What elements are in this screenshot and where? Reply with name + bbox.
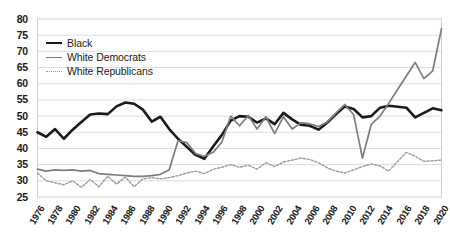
y-axis-tick-label: 40 — [2, 143, 28, 153]
y-axis-tick-label: 25 — [2, 192, 28, 202]
chart-legend: BlackWhite DemocratsWhite Republicans — [46, 37, 153, 77]
y-axis-tick-label: 75 — [2, 30, 28, 40]
y-axis-tick-label: 60 — [2, 78, 28, 88]
y-axis-tick-label: 65 — [2, 62, 28, 72]
y-axis-tick-label: 35 — [2, 159, 28, 169]
y-axis-tick-label: 70 — [2, 46, 28, 56]
legend-item: White Republicans — [46, 65, 153, 77]
legend-item-label: White Republicans — [67, 66, 153, 77]
y-axis-tick-label: 50 — [2, 111, 28, 121]
y-axis-tick-label: 30 — [2, 175, 28, 185]
y-axis-tick-label: 55 — [2, 94, 28, 104]
y-axis-tick-label: 80 — [2, 14, 28, 24]
legend-line-swatch-icon — [46, 42, 62, 44]
legend-item-label: White Democrats — [67, 52, 146, 63]
y-axis-tick-label: 45 — [2, 127, 28, 137]
legend-item-label: Black — [67, 38, 92, 49]
legend-item: Black — [46, 37, 153, 49]
legend-item: White Democrats — [46, 51, 153, 63]
legend-line-swatch-icon — [46, 71, 62, 72]
legend-line-swatch-icon — [46, 57, 62, 58]
